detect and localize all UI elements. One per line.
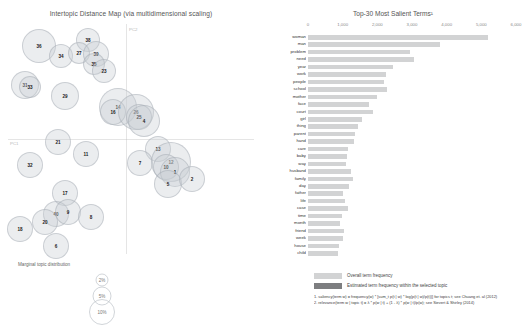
term-label[interactable]: case (272, 206, 306, 210)
overall-frequency-bar (308, 57, 414, 62)
term-label[interactable]: court (272, 110, 306, 114)
bar-track (308, 184, 516, 189)
term-label[interactable]: people (272, 80, 306, 84)
topic-bubble[interactable] (78, 204, 104, 230)
term-bar-list[interactable]: womanmanproblemneedyearworkpeopleschoolm… (280, 35, 516, 265)
term-bar-row[interactable]: year (280, 65, 516, 70)
term-bar-row[interactable]: face (280, 102, 516, 107)
term-bar-row[interactable]: life (280, 199, 516, 204)
overall-frequency-bar (308, 177, 353, 182)
topic-bubble[interactable] (128, 105, 160, 137)
term-bar-row[interactable]: people (280, 80, 516, 85)
term-label[interactable]: thing (272, 124, 306, 128)
topic-bubble[interactable] (73, 141, 99, 167)
term-label[interactable]: face (272, 102, 306, 106)
term-bar-row[interactable]: man (280, 42, 516, 47)
topic-bubble[interactable] (51, 82, 79, 110)
overall-frequency-bar (308, 117, 362, 122)
topic-frequency-label: Estimated term frequency within the sele… (347, 283, 447, 288)
term-bar-row[interactable]: need (280, 57, 516, 62)
term-bar-row[interactable]: friend (280, 229, 516, 234)
term-label[interactable]: month (272, 221, 306, 225)
topic-bubble[interactable] (17, 152, 43, 178)
term-bar-row[interactable]: month (280, 221, 516, 226)
term-label[interactable]: way (272, 162, 306, 166)
term-label[interactable]: time (272, 214, 306, 218)
term-label[interactable]: need (272, 57, 306, 61)
term-label[interactable]: work (272, 72, 306, 76)
footnote-relevance: 2. relevance(term w | topic t) = λ * p(w… (314, 300, 524, 306)
term-bar-row[interactable]: mother (280, 95, 516, 100)
term-label[interactable]: care (272, 147, 306, 151)
term-label[interactable]: house (272, 244, 306, 248)
salient-terms-panel: Top-30 Most Salient Terms¹ 01,0002,0003,… (262, 0, 524, 326)
term-bar-row[interactable]: case (280, 206, 516, 211)
term-label[interactable]: year (272, 65, 306, 69)
term-label[interactable]: hand (272, 139, 306, 143)
salient-terms-title: Top-30 Most Salient Terms¹ (262, 10, 524, 17)
term-bar-row[interactable]: house (280, 244, 516, 249)
term-label[interactable]: parent (272, 132, 306, 136)
pc2-axis-label: PC2 (129, 27, 138, 32)
topic-bubble[interactable] (179, 166, 205, 192)
topic-bubble[interactable] (19, 76, 41, 98)
term-bar-row[interactable]: hand (280, 139, 516, 144)
overall-frequency-bar (308, 244, 339, 249)
overall-frequency-bar (308, 95, 377, 100)
term-bar-row[interactable]: work (280, 72, 516, 77)
term-label[interactable]: family (272, 177, 306, 181)
term-label[interactable]: life (272, 199, 306, 203)
term-bar-row[interactable]: girl (280, 117, 516, 122)
topic-bubble[interactable] (127, 150, 153, 176)
term-bar-row[interactable]: woman (280, 35, 516, 40)
term-label[interactable]: week (272, 236, 306, 240)
term-bar-row[interactable]: father (280, 191, 516, 196)
term-bar-row[interactable]: family (280, 177, 516, 182)
bar-track (308, 35, 516, 40)
term-label[interactable]: day (272, 184, 306, 188)
term-label[interactable]: school (272, 87, 306, 91)
term-bar-row[interactable]: school (280, 87, 516, 92)
term-bar-row[interactable]: husband (280, 169, 516, 174)
overall-frequency-bar (308, 139, 354, 144)
term-bar-row[interactable]: child (280, 251, 516, 256)
term-bar-row[interactable]: way (280, 162, 516, 167)
term-bar-row[interactable]: week (280, 236, 516, 241)
size-legend-percent: 5% (99, 294, 106, 299)
legend-row-overall: Overall term frequency (314, 272, 514, 281)
mds-scatter-plot[interactable]: PC2 PC1 36343827393523313329141626254211… (8, 24, 254, 254)
term-bar-row[interactable]: day (280, 184, 516, 189)
term-bar-row[interactable]: baby (280, 154, 516, 159)
topic-bubble[interactable] (55, 199, 81, 225)
term-label[interactable]: girl (272, 117, 306, 121)
term-bar-row[interactable]: problem (280, 50, 516, 55)
term-bar-row[interactable]: care (280, 147, 516, 152)
overall-frequency-bar (308, 110, 373, 115)
term-bar-row[interactable]: parent (280, 132, 516, 137)
topic-bubble[interactable] (45, 129, 71, 155)
topic-bubble[interactable] (154, 170, 182, 198)
overall-frequency-bar (308, 87, 387, 92)
term-bar-row[interactable]: court (280, 110, 516, 115)
topic-bubble[interactable] (43, 233, 69, 259)
term-label[interactable]: problem (272, 50, 306, 54)
term-label[interactable]: baby (272, 154, 306, 158)
pyldavis-visualization: Intertopic Distance Map (via multidimens… (0, 0, 524, 326)
overall-frequency-label: Overall term frequency (347, 273, 393, 278)
overall-frequency-bar (308, 214, 342, 219)
term-label[interactable]: father (272, 191, 306, 195)
term-label[interactable]: woman (272, 35, 306, 39)
bubble-size-legend: 2%5%10% (40, 266, 170, 324)
term-label[interactable]: child (272, 251, 306, 255)
topic-bubble[interactable] (7, 216, 33, 242)
overall-frequency-bar (308, 199, 345, 204)
overall-frequency-bar (308, 80, 384, 85)
topic-bubble[interactable] (92, 59, 116, 83)
term-label[interactable]: man (272, 42, 306, 46)
term-label[interactable]: mother (272, 95, 306, 99)
term-bar-row[interactable]: time (280, 214, 516, 219)
term-label[interactable]: husband (272, 169, 306, 173)
term-label[interactable]: friend (272, 229, 306, 233)
term-bar-row[interactable]: thing (280, 124, 516, 129)
topic-bubble[interactable] (32, 209, 58, 235)
